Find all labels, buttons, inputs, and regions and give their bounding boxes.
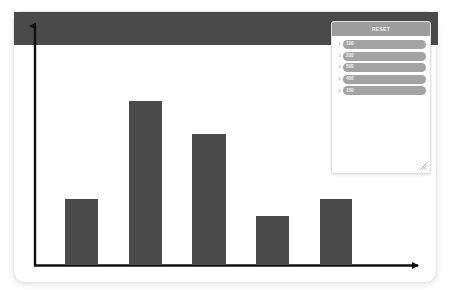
panel-row[interactable]: 2 200: [336, 52, 426, 61]
panel-header-title: RESET: [372, 27, 390, 32]
row-pill[interactable]: 400: [343, 75, 426, 84]
row-index: 5: [336, 89, 343, 93]
row-value: 100: [346, 42, 354, 47]
panel-row-list: 1 100 2 200 3 500 4 400: [332, 36, 430, 95]
row-value: 500: [346, 65, 354, 70]
row-index: 4: [336, 77, 343, 81]
row-index: 2: [336, 54, 343, 58]
row-value: 150: [346, 89, 354, 94]
resize-grip-icon[interactable]: [420, 163, 427, 170]
row-index: 1: [336, 42, 343, 46]
row-pill[interactable]: 500: [343, 63, 426, 72]
bar-2[interactable]: [129, 101, 162, 265]
row-pill[interactable]: 150: [343, 86, 426, 95]
bar-1[interactable]: [65, 199, 98, 265]
chart-card: RESET 1 100 2 200 3 500: [13, 11, 437, 283]
row-pill[interactable]: 200: [343, 52, 426, 61]
bar-3[interactable]: [192, 134, 226, 265]
row-index: 3: [336, 65, 343, 69]
bar-4[interactable]: [256, 216, 289, 265]
row-value: 200: [346, 54, 354, 59]
panel-row[interactable]: 1 100: [336, 40, 426, 49]
panel-header[interactable]: RESET: [332, 22, 430, 36]
panel-row[interactable]: 3 500: [336, 63, 426, 72]
row-pill[interactable]: 100: [343, 40, 426, 49]
data-panel[interactable]: RESET 1 100 2 200 3 500: [331, 21, 431, 174]
row-value: 400: [346, 77, 354, 82]
bar-5[interactable]: [320, 199, 352, 265]
panel-row[interactable]: 5 150: [336, 86, 426, 95]
panel-row[interactable]: 4 400: [336, 75, 426, 84]
